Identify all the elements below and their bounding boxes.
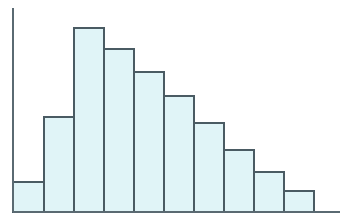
histogram-bar [194, 123, 224, 212]
histogram-bar [74, 28, 104, 212]
histogram-figure [0, 0, 344, 222]
histogram-bar [254, 172, 284, 212]
histogram-plot [0, 0, 344, 222]
histogram-bar [224, 150, 254, 212]
histogram-bar [44, 117, 74, 212]
histogram-bar [134, 72, 164, 212]
histogram-bar [13, 182, 44, 212]
histogram-bar [284, 191, 314, 212]
histogram-bar [164, 96, 194, 212]
histogram-bar [104, 49, 134, 212]
